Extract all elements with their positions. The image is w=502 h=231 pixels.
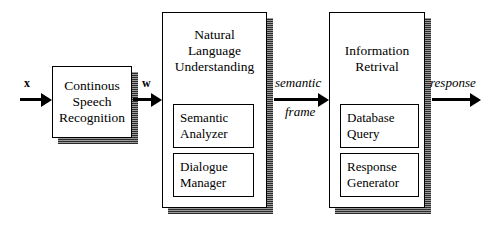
nlu-sub-dialogue-manager[interactable]: Dialogue Manager (173, 153, 254, 197)
edge-label-words-w: w (142, 76, 151, 91)
arrow-shaft (432, 98, 470, 101)
edge-label-semantic: semantic (275, 75, 321, 91)
arrow-shaft (274, 98, 318, 101)
arrow-input-to-csr (20, 93, 52, 107)
edge-label-frame: frame (285, 104, 315, 120)
edge-label-response: response (430, 75, 476, 91)
arrow-ir-to-response (432, 93, 481, 107)
ir-stage-label: Information Retrival (345, 43, 409, 75)
ir-sub-response-generator[interactable]: Response Generator (340, 153, 419, 197)
system-architecture-diagram: Continous Speech Recognition Natural Lan… (0, 0, 502, 231)
response-generator-label: Response Generator (341, 159, 418, 190)
arrow-head (41, 93, 52, 107)
nlu-sub-semantic-analyzer[interactable]: Semantic Analyzer (173, 104, 254, 148)
csr-stage-box[interactable]: Continous Speech Recognition (52, 66, 132, 138)
edge-label-input-x: x (24, 76, 30, 91)
arrow-csr-to-nlu (133, 93, 162, 107)
semantic-analyzer-label: Semantic Analyzer (174, 110, 253, 141)
arrow-head (470, 93, 481, 107)
arrow-shaft (20, 98, 41, 101)
arrow-head (318, 93, 329, 107)
arrow-head (151, 93, 162, 107)
database-query-label: Database Query (341, 110, 418, 141)
ir-sub-database-query[interactable]: Database Query (340, 104, 419, 148)
nlu-stage-label: Natural Language Understanding (175, 27, 254, 75)
csr-stage-label: Continous Speech Recognition (59, 78, 125, 126)
dialogue-manager-label: Dialogue Manager (174, 159, 253, 190)
arrow-shaft (133, 98, 151, 101)
